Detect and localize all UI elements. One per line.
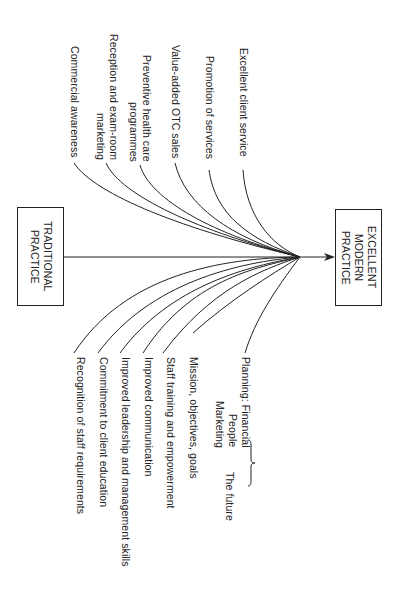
lower-branch-label: Recognition of staff requirements	[74, 357, 87, 514]
source-box-line2: PRACTICE	[29, 230, 41, 284]
branch-line	[140, 165, 300, 257]
lower-branch-label: Staff training and empowerment	[164, 357, 177, 509]
label-line: Reception and exam-room	[108, 34, 120, 160]
traditional-practice-label: TRADITIONAL PRACTICE	[28, 221, 54, 292]
connector-lines	[0, 0, 401, 612]
excellent-modern-practice-box: EXCELLENT MODERN PRACTICE	[335, 209, 382, 306]
traditional-practice-box: TRADITIONAL PRACTICE	[17, 207, 64, 306]
branch-line	[163, 257, 300, 353]
upper-branch-label: Excellent client service	[237, 48, 250, 157]
source-box-line1: TRADITIONAL	[42, 221, 54, 292]
label-line: Marketing	[214, 401, 226, 448]
branch-line	[98, 257, 300, 353]
branch-line	[106, 163, 300, 257]
upper-branch-label: Promotion of services	[203, 56, 216, 159]
the-future-label: The future	[223, 472, 236, 521]
excellent-modern-practice-label: EXCELLENT MODERN PRACTICE	[339, 226, 378, 288]
upper-branch-label: Value-added OTC sales	[169, 45, 182, 158]
label-line: programmes	[128, 102, 140, 162]
lower-branch-label: Improved leadership and management skill…	[119, 357, 132, 567]
label-line: Preventive health care	[141, 55, 153, 162]
branch-line	[245, 257, 300, 353]
upper-branch-label: Commercial awareness	[68, 46, 81, 158]
branch-line	[120, 257, 300, 353]
upper-branch-label: Reception and exam-room marketing	[94, 32, 120, 160]
target-box-line2: MODERN	[353, 234, 365, 281]
branch-line	[74, 257, 300, 353]
label-line: Planning: Financial	[240, 357, 252, 448]
lower-branch-label: Planning: Financial People Marketing	[213, 357, 252, 448]
label-line: marketing	[95, 113, 107, 160]
target-box-line3: PRACTICE	[340, 231, 352, 285]
lower-branch-label: Improved communication	[142, 357, 155, 477]
target-box-line1: EXCELLENT	[366, 226, 378, 288]
branch-line	[193, 257, 300, 333]
diagram-canvas: TRADITIONAL PRACTICE EXCELLENT MODERN PR…	[0, 0, 401, 612]
lower-branch-label: Commitment to client education	[97, 357, 110, 507]
branch-line	[175, 163, 300, 257]
lower-branch-label: Mission, objectives, goals	[187, 357, 200, 479]
label-line: People	[226, 414, 239, 447]
upper-branch-label: Preventive health care programmes	[127, 52, 153, 162]
